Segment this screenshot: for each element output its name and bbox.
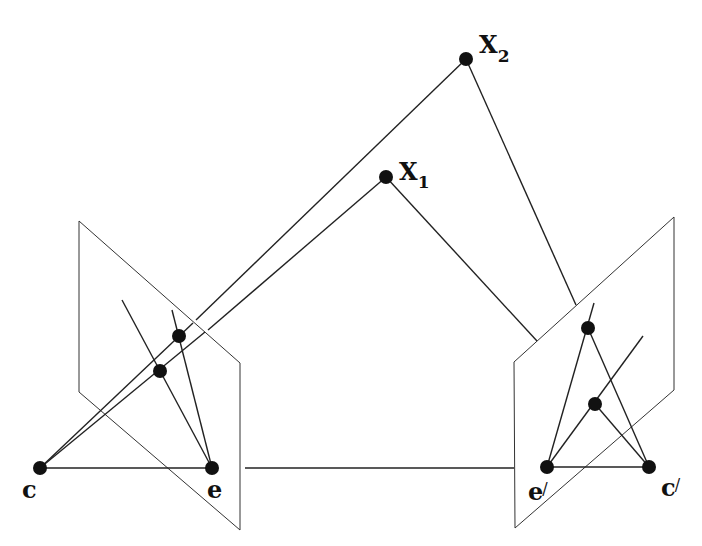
- point-x1-left-image: [153, 364, 167, 378]
- ray-c-to-x1-outside: [208, 177, 386, 330]
- ray-x2-to-right-plane: [466, 59, 576, 305]
- point-x2-right-image: [581, 321, 595, 335]
- label-x2: X2: [479, 30, 509, 66]
- label-c: c: [22, 475, 37, 504]
- point-x1-right-image: [588, 397, 602, 411]
- point-e-prime: [540, 460, 554, 474]
- point-x2: [459, 52, 473, 66]
- label-x1: X1: [399, 157, 429, 192]
- point-e: [205, 461, 219, 475]
- label-c-prime: c/: [661, 473, 681, 502]
- point-c: [33, 461, 47, 475]
- ray-c-to-x2-inside: [40, 323, 193, 468]
- ray-c-to-x1-inside: [40, 332, 205, 468]
- point-x1: [379, 170, 393, 184]
- epipolar-geometry-diagram: X2 X1 c e e/ c/: [0, 0, 702, 546]
- right-line-x1-to-cprime: [595, 404, 649, 467]
- point-c-prime: [642, 460, 656, 474]
- left-epipolar-line-x1: [122, 300, 212, 468]
- ray-x1-to-right-plane: [386, 177, 537, 341]
- label-e: e: [207, 475, 222, 504]
- point-x2-left-image: [172, 329, 186, 343]
